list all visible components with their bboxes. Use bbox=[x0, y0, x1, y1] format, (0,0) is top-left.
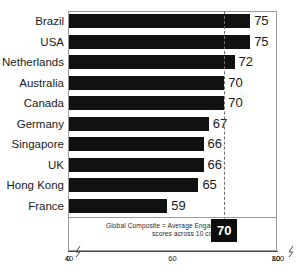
bar-row: 75 bbox=[68, 11, 277, 32]
bar-brazil bbox=[69, 14, 250, 28]
category-label-australia: Australia bbox=[19, 73, 64, 94]
bar-australia bbox=[69, 76, 224, 90]
bar-row: 59 bbox=[68, 196, 277, 217]
bar-value-label: 65 bbox=[202, 175, 216, 196]
annotation-divider bbox=[69, 217, 276, 218]
bar-germany bbox=[69, 117, 209, 131]
category-label-france: France bbox=[28, 196, 64, 217]
bar-chart: BrazilUSANetherlandsAustraliaCanadaGerma… bbox=[0, 0, 297, 272]
x-tick-60: 60 bbox=[168, 254, 176, 263]
bar-value-label: 72 bbox=[239, 52, 253, 73]
bar-row: 72 bbox=[68, 52, 277, 73]
bar-row: 66 bbox=[68, 134, 277, 155]
bar-usa bbox=[69, 35, 250, 49]
annotation-text: Global Composite = Average Engagement sc… bbox=[75, 222, 233, 239]
axis-break-mark-1 bbox=[74, 246, 82, 257]
bar-value-label: 75 bbox=[254, 11, 268, 32]
annotation-box: Global Composite = Average Engagement sc… bbox=[69, 217, 276, 250]
category-label-germany: Germany bbox=[17, 114, 64, 135]
bar-row: 65 bbox=[68, 175, 277, 196]
category-label-usa: USA bbox=[40, 32, 64, 53]
category-label-hong-kong: Hong Kong bbox=[6, 175, 64, 196]
annotation-line-2: scores across 10 countries bbox=[75, 230, 233, 239]
bar-row: 70 bbox=[68, 73, 277, 94]
x-tick-40: 40 bbox=[65, 254, 73, 263]
annotation-line-1: Global Composite = Average Engagement bbox=[75, 222, 233, 231]
x-tick-100: 100 bbox=[272, 254, 285, 263]
category-label-singapore: Singapore bbox=[12, 134, 64, 155]
bars-container: 75757270706766666559 bbox=[68, 11, 277, 216]
x-axis: 0406080100 bbox=[58, 251, 282, 272]
bar-singapore bbox=[69, 137, 204, 151]
bar-row: 67 bbox=[68, 114, 277, 135]
bar-hong-kong bbox=[69, 178, 198, 192]
category-label-netherlands: Netherlands bbox=[2, 52, 64, 73]
bar-value-label: 70 bbox=[228, 73, 242, 94]
axis-break-mark-2 bbox=[287, 246, 295, 257]
bar-canada bbox=[69, 96, 224, 110]
bar-row: 70 bbox=[68, 93, 277, 114]
reference-line-70 bbox=[224, 11, 225, 240]
category-label-canada: Canada bbox=[24, 93, 64, 114]
x-axis-line bbox=[68, 251, 278, 252]
bar-uk bbox=[69, 158, 204, 172]
bar-value-label: 75 bbox=[254, 32, 268, 53]
bar-france bbox=[69, 199, 167, 213]
category-axis-labels: BrazilUSANetherlandsAustraliaCanadaGerma… bbox=[0, 11, 64, 216]
bar-value-label: 70 bbox=[228, 93, 242, 114]
category-label-brazil: Brazil bbox=[35, 11, 64, 32]
category-label-uk: UK bbox=[48, 155, 64, 176]
bar-value-label: 59 bbox=[171, 196, 185, 217]
bar-row: 75 bbox=[68, 32, 277, 53]
bar-value-label: 66 bbox=[208, 155, 222, 176]
global-composite-badge: 70 bbox=[212, 220, 236, 241]
bar-value-label: 66 bbox=[208, 134, 222, 155]
bar-netherlands bbox=[69, 55, 235, 69]
bar-row: 66 bbox=[68, 155, 277, 176]
